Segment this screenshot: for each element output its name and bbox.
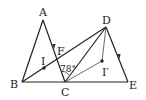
label-i-prime: I′ (102, 66, 109, 79)
segment-de (106, 27, 128, 82)
label-d: D (102, 14, 111, 27)
segment-ab (22, 20, 43, 82)
label-i: I (41, 55, 45, 68)
label-f: F (57, 45, 65, 58)
label-e: E (129, 79, 137, 92)
angle-label: 78° (60, 64, 76, 74)
label-b: B (10, 78, 18, 91)
label-a: A (38, 6, 48, 19)
label-c: C (61, 86, 69, 99)
geometry-diagram: A B C D E F I I′ 78° (0, 0, 146, 100)
point-i-prime (100, 59, 103, 62)
